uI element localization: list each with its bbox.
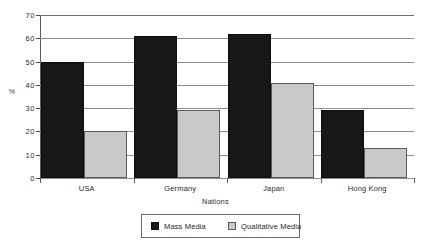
x-axis-category-label: Germany — [164, 184, 196, 193]
x-axis-category-label: Japan — [263, 184, 284, 193]
y-axis-tick-label: 40 — [14, 80, 35, 89]
bar-chart: % 706050403020100 USAGermanyJapanHong Ko… — [0, 0, 431, 246]
plot-area — [40, 15, 414, 178]
legend-label: Mass Media — [164, 222, 206, 231]
legend-entry: Qualitative Media — [228, 222, 302, 231]
x-axis-tick-mark — [40, 178, 41, 183]
x-axis-tick-mark — [134, 178, 135, 183]
x-axis-tick-mark — [414, 178, 415, 183]
y-axis-tick-label: 70 — [14, 11, 35, 20]
y-axis-tick-label: 10 — [14, 150, 35, 159]
legend-entry: Mass Media — [151, 222, 206, 231]
bar-group — [41, 15, 127, 178]
bar — [177, 110, 220, 178]
y-axis-tick-label: 60 — [14, 34, 35, 43]
chart-legend: Mass MediaQualitative Media — [141, 214, 300, 238]
x-axis-tick-mark — [227, 178, 228, 183]
bar-group — [134, 15, 220, 178]
x-axis-tick-mark — [321, 178, 322, 183]
legend-swatch-icon — [228, 222, 236, 230]
bar — [364, 148, 407, 178]
bar — [134, 36, 177, 178]
legend-swatch-icon — [151, 222, 159, 230]
y-axis-tick-label: 30 — [14, 104, 35, 113]
x-axis-category-label: Hong Kong — [348, 184, 387, 193]
bar-group — [321, 15, 407, 178]
bar-group — [228, 15, 314, 178]
y-axis-tick-label: 50 — [14, 57, 35, 66]
legend-label: Qualitative Media — [241, 222, 302, 231]
bar — [321, 110, 364, 178]
y-axis-tick-label: 0 — [14, 174, 35, 183]
bar — [228, 34, 271, 178]
bar — [271, 83, 314, 178]
x-axis-title: Nations — [0, 197, 431, 206]
bar — [84, 131, 127, 178]
y-axis-tick-label: 20 — [14, 127, 35, 136]
bar — [41, 62, 84, 178]
x-axis-category-label: USA — [79, 184, 95, 193]
